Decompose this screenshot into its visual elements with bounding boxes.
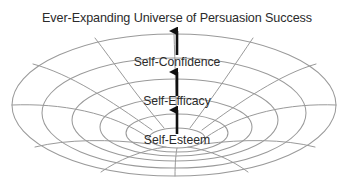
spoke-e <box>205 105 336 138</box>
page-title: Ever-Expanding Universe of Persuasion Su… <box>0 12 354 25</box>
level-label-self-efficacy: Self-Efficacy <box>0 95 354 107</box>
level-label-self-esteem: Self-Esteem <box>0 134 354 146</box>
spoke-w <box>12 105 149 138</box>
level-label-self-confidence: Self-Confidence <box>0 56 354 68</box>
funnel-diagram-figure: Ever-Expanding Universe of Persuasion Su… <box>0 0 354 195</box>
ring-mid-1 <box>72 79 278 161</box>
